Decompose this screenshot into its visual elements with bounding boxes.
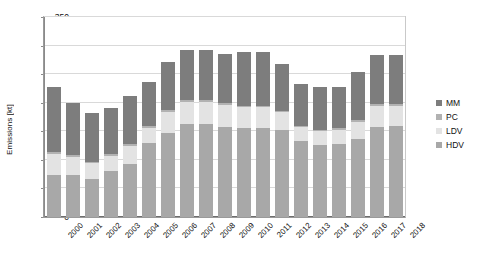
bar-stack[interactable] xyxy=(85,113,98,217)
bar-segment-mm xyxy=(47,87,61,152)
bar-stack[interactable] xyxy=(66,103,79,217)
bar-segment-hdv xyxy=(256,128,270,217)
bar-segment-ldv xyxy=(370,106,384,127)
bar-segment-mm xyxy=(237,52,251,106)
bar-stack[interactable] xyxy=(313,87,326,217)
bar-series-container xyxy=(44,17,405,217)
bar-stack[interactable] xyxy=(142,82,155,217)
bar-segment-hdv xyxy=(294,141,308,217)
bar-segment-mm xyxy=(142,82,156,126)
bar-segment-ldv xyxy=(142,128,156,143)
bar-segment-hdv xyxy=(275,130,289,217)
bar-segment-hdv xyxy=(123,164,137,217)
bar-segment-ldv xyxy=(389,106,403,126)
legend-item-pc[interactable]: PC xyxy=(436,110,478,124)
bar-segment-ldv xyxy=(123,146,137,164)
bar-segment-mm xyxy=(161,62,175,111)
bar-stack[interactable] xyxy=(294,84,307,217)
bar-segment-hdv xyxy=(351,139,365,217)
legend-swatch-icon xyxy=(436,100,442,106)
bar-segment-hdv xyxy=(218,127,232,217)
bar-stack[interactable] xyxy=(104,108,117,217)
bar-segment-ldv xyxy=(332,130,346,144)
bar-segment-mm xyxy=(180,50,194,100)
bar-stack[interactable] xyxy=(237,52,250,217)
bar-segment-mm xyxy=(275,64,289,111)
bar-segment-ldv xyxy=(313,131,327,145)
bar-segment-ldv xyxy=(161,112,175,133)
bar-segment-mm xyxy=(85,113,99,162)
bar-segment-ldv xyxy=(104,156,118,171)
bar-segment-hdv xyxy=(370,127,384,217)
legend-label: MM xyxy=(446,99,460,108)
legend-item-mm[interactable]: MM xyxy=(436,96,478,110)
bar-segment-mm xyxy=(218,54,232,103)
bar-segment-ldv xyxy=(85,163,99,178)
bar-segment-mm xyxy=(104,108,118,154)
bar-stack[interactable] xyxy=(199,50,212,217)
bar-segment-mm xyxy=(313,87,327,130)
bar-segment-mm xyxy=(332,87,346,129)
legend-label: LDV xyxy=(446,127,463,136)
bar-stack[interactable] xyxy=(256,52,269,217)
bar-stack[interactable] xyxy=(123,96,136,217)
bar-stack[interactable] xyxy=(47,87,60,217)
bar-segment-ldv xyxy=(256,107,270,128)
bar-segment-mm xyxy=(389,55,403,105)
bar-segment-ldv xyxy=(294,127,308,141)
bar-segment-mm xyxy=(66,103,80,156)
bar-segment-mm xyxy=(199,50,213,100)
bar-segment-hdv xyxy=(332,144,346,217)
bar-segment-hdv xyxy=(47,175,61,217)
bar-stack[interactable] xyxy=(161,62,174,217)
bar-segment-hdv xyxy=(199,124,213,217)
bar-segment-ldv xyxy=(218,105,232,127)
bar-segment-mm xyxy=(370,55,384,105)
bar-segment-mm xyxy=(256,52,270,106)
bar-segment-hdv xyxy=(85,179,99,217)
chart-figure: Emissions [kt] 050100150200250300350 200… xyxy=(0,0,479,259)
bar-segment-ldv xyxy=(199,102,213,124)
legend-swatch-icon xyxy=(436,128,442,134)
bar-stack[interactable] xyxy=(370,55,383,217)
bar-segment-hdv xyxy=(180,124,194,217)
chart-legend: MMPCLDVHDV xyxy=(436,96,478,152)
bar-segment-mm xyxy=(123,96,137,144)
legend-label: HDV xyxy=(446,141,464,150)
bar-segment-ldv xyxy=(351,122,365,139)
bar-segment-ldv xyxy=(275,112,289,130)
bar-segment-mm xyxy=(294,84,308,125)
bar-segment-ldv xyxy=(66,157,80,175)
bar-segment-hdv xyxy=(104,171,118,217)
bar-segment-hdv xyxy=(161,133,175,217)
bar-segment-ldv xyxy=(237,107,251,128)
bar-stack[interactable] xyxy=(180,50,193,217)
bar-segment-ldv xyxy=(180,102,194,124)
bar-segment-hdv xyxy=(66,175,80,217)
bar-stack[interactable] xyxy=(332,87,345,217)
legend-item-ldv[interactable]: LDV xyxy=(436,124,478,138)
bar-stack[interactable] xyxy=(351,72,364,217)
bar-stack[interactable] xyxy=(218,54,231,217)
bar-segment-ldv xyxy=(47,154,61,175)
legend-item-hdv[interactable]: HDV xyxy=(436,138,478,152)
bar-segment-hdv xyxy=(389,126,403,217)
bar-stack[interactable] xyxy=(389,55,402,217)
bar-segment-hdv xyxy=(142,143,156,217)
legend-swatch-icon xyxy=(436,114,442,120)
bar-segment-mm xyxy=(351,72,365,120)
bar-segment-hdv xyxy=(313,145,327,217)
legend-label: PC xyxy=(446,113,458,122)
bar-segment-hdv xyxy=(237,128,251,217)
bar-stack[interactable] xyxy=(275,64,288,217)
legend-swatch-icon xyxy=(436,142,442,148)
